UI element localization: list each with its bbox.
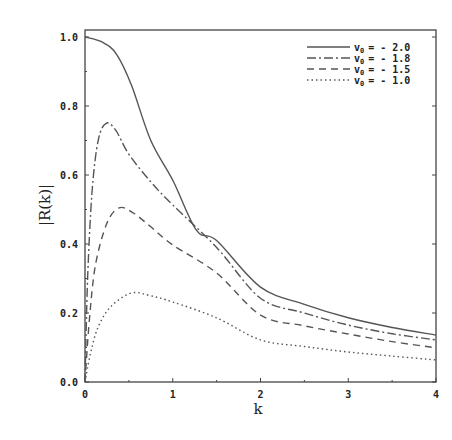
chart: 0.00.20.40.60.81.0 01234 v0= - 2.0v0= - … — [0, 0, 452, 440]
series-line-3 — [85, 292, 436, 382]
x-tick-label: 4 — [433, 389, 439, 400]
y-axis-label: |R(k)| — [36, 184, 54, 226]
series-line-1 — [85, 123, 436, 382]
y-tick-label: 0.8 — [60, 101, 78, 112]
x-axis-ticks: 01234 — [82, 378, 439, 400]
y-tick-label: 0.0 — [60, 377, 78, 388]
y-tick-label: 0.4 — [60, 239, 78, 250]
y-tick-label: 1.0 — [60, 32, 78, 43]
x-tick-label: 2 — [257, 389, 263, 400]
y-tick-label: 0.6 — [60, 170, 78, 181]
x-tick-label: 1 — [170, 389, 176, 400]
x-axis-label: k — [253, 400, 263, 418]
series-line-2 — [85, 207, 436, 382]
y-tick-label: 0.2 — [60, 308, 78, 319]
legend: v0= - 2.0v0= - 1.8v0= - 1.5v0= - 1.0 — [307, 42, 410, 88]
x-tick-label: 0 — [82, 389, 88, 400]
x-tick-label: 3 — [345, 389, 351, 400]
series-lines — [85, 37, 436, 382]
